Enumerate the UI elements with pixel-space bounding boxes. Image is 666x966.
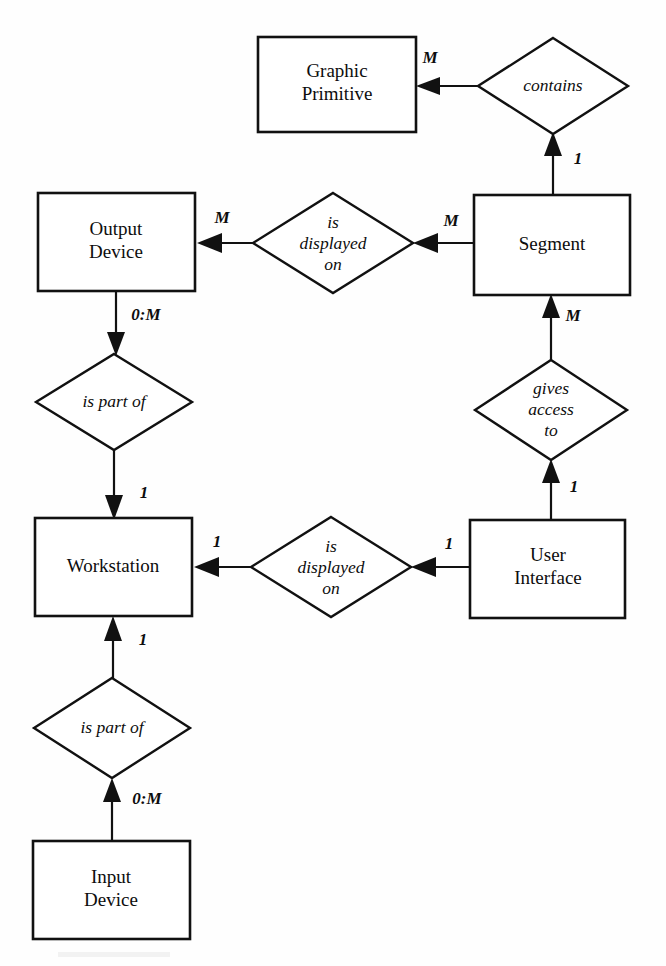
relationship-is-part-of-input-label: is part of: [80, 717, 145, 737]
relationship-is-displayed-on-segment-line2: displayed: [299, 233, 366, 253]
connector-displayed-to-output-device: [197, 233, 253, 253]
cardinality-output-device-is-displayed-on: M: [213, 208, 230, 227]
entity-segment[interactable]: Segment: [474, 195, 630, 295]
cardinality-user-interface-is-displayed-on: 1: [445, 534, 454, 553]
connector-is-part-of-to-workstation: [105, 450, 123, 520]
er-diagram-canvas: contains is displayed on is part of give…: [0, 0, 666, 966]
relationship-gives-access-to-line1: gives: [533, 378, 569, 398]
cardinality-workstation-is-part-of-top: 1: [140, 483, 149, 502]
entity-segment-label-line1: Segment: [519, 233, 586, 254]
relationship-contains-label: contains: [523, 75, 582, 95]
connector-ui-to-displayed-ui: [411, 557, 470, 577]
cardinality-segment-is-displayed-on: M: [442, 211, 459, 230]
connector-contains-to-graphic-primitive: [416, 77, 478, 95]
relationship-gives-access-to-line3: to: [544, 420, 558, 440]
connector-output-device-to-is-part-of: [107, 291, 125, 356]
entity-workstation[interactable]: Workstation: [35, 518, 192, 616]
entity-output-device-label-line2: Device: [89, 241, 143, 262]
relationship-is-part-of-output[interactable]: is part of: [36, 354, 192, 450]
cardinality-workstation-is-part-of-bottom: 1: [139, 630, 148, 649]
relationship-is-part-of-output-label: is part of: [82, 391, 147, 411]
cardinality-workstation-is-displayed-on: 1: [213, 532, 222, 551]
entity-graphic-primitive-label-line2: Primitive: [302, 83, 373, 104]
entity-workstation-label-line1: Workstation: [67, 555, 160, 576]
relationship-is-part-of-input[interactable]: is part of: [34, 678, 190, 778]
entity-input-device-label-line1: Input: [91, 866, 132, 887]
entity-user-interface-label-line2: Interface: [514, 567, 582, 588]
relationship-is-displayed-on-segment-line3: on: [324, 254, 342, 274]
relationship-is-displayed-on-ui-line3: on: [322, 578, 340, 598]
page-bottom-scan-artifact: [58, 952, 170, 957]
connector-input-device-to-is-part-of: [103, 778, 121, 841]
relationship-is-displayed-on-ui-line1: is: [325, 536, 337, 556]
entity-input-device-label-line2: Device: [84, 889, 138, 910]
relationship-gives-access-to-line2: access: [528, 399, 574, 419]
cardinality-user-interface-gives-access-to: 1: [570, 477, 579, 496]
cardinality-segment-contains: 1: [574, 149, 583, 168]
entity-input-device[interactable]: Input Device: [33, 841, 190, 939]
entity-user-interface[interactable]: User Interface: [470, 520, 625, 618]
relationship-is-displayed-on-segment[interactable]: is displayed on: [253, 193, 413, 293]
entity-output-device-label-line1: Output: [90, 218, 144, 239]
entity-graphic-primitive[interactable]: Graphic Primitive: [258, 37, 416, 132]
cardinality-input-device-is-part-of: 0:M: [132, 789, 162, 808]
connector-gives-access-to-segment: [542, 294, 560, 360]
relationship-gives-access-to[interactable]: gives access to: [475, 360, 627, 460]
relationship-contains[interactable]: contains: [478, 38, 628, 134]
relationship-is-displayed-on-ui[interactable]: is displayed on: [251, 517, 411, 617]
connector-displayed-ui-to-workstation: [194, 557, 251, 577]
entity-user-interface-label-line1: User: [530, 544, 567, 565]
relationship-is-displayed-on-segment-line1: is: [327, 212, 339, 232]
connector-segment-to-contains: [544, 132, 562, 195]
connector-is-part-of-input-to-workstation: [104, 616, 122, 678]
entity-output-device[interactable]: Output Device: [38, 193, 195, 291]
er-diagram-page: contains is displayed on is part of give…: [0, 0, 666, 966]
connector-segment-to-displayed: [413, 233, 474, 253]
cardinality-segment-gives-access-to: M: [564, 306, 581, 325]
entity-graphic-primitive-label-line1: Graphic: [306, 60, 367, 81]
connector-ui-to-gives-access: [542, 459, 560, 520]
relationship-is-displayed-on-ui-line2: displayed: [297, 557, 364, 577]
cardinality-graphic-primitive-contains: M: [421, 48, 438, 67]
cardinality-output-device-is-part-of: 0:M: [131, 305, 161, 324]
